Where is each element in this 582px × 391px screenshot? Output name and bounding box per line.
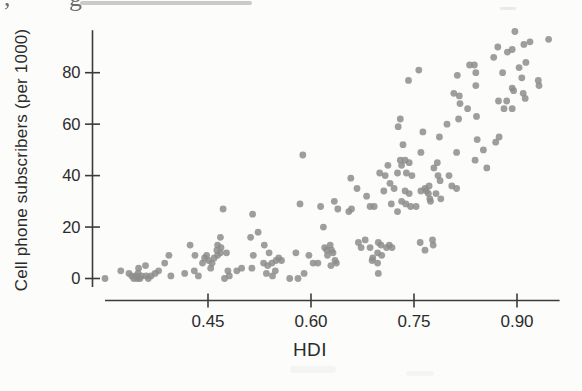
data-point [249, 265, 256, 272]
data-point [218, 244, 225, 251]
data-point [374, 260, 381, 267]
data-point [436, 134, 443, 141]
data-point [455, 116, 462, 123]
data-point [362, 237, 369, 244]
y-tick-label: 0 [71, 269, 80, 287]
data-point [453, 149, 460, 156]
data-point [516, 64, 523, 71]
data-point [385, 162, 392, 169]
x-tick-label: 0.45 [191, 312, 224, 331]
scanned-figure-page: , g 0204060800.450.600.750.90 Cell phone… [0, 0, 582, 391]
data-point [395, 123, 402, 130]
data-point [333, 260, 340, 267]
data-point [354, 185, 361, 192]
data-point [454, 72, 461, 79]
data-point [380, 188, 387, 195]
data-point [418, 149, 425, 156]
y-tick-label: 20 [62, 218, 80, 236]
data-point [306, 252, 313, 259]
data-point [161, 260, 168, 267]
data-point [509, 105, 516, 112]
data-point [415, 67, 422, 74]
data-point [474, 136, 481, 143]
data-point [278, 257, 285, 264]
data-point [195, 273, 202, 280]
data-point [406, 190, 413, 197]
data-point [217, 234, 224, 241]
data-point [226, 273, 233, 280]
data-point [521, 41, 528, 48]
scatter-plot: 0204060800.450.600.750.90 [0, 0, 582, 391]
data-point [434, 159, 441, 166]
data-point [406, 159, 413, 166]
data-point [536, 82, 543, 89]
data-point [348, 206, 355, 213]
data-point [490, 54, 497, 61]
data-point [422, 247, 429, 254]
data-point [400, 141, 407, 148]
data-point [367, 244, 374, 251]
data-point [369, 255, 376, 262]
data-point [299, 152, 306, 159]
x-tick-label: 0.75 [397, 312, 430, 331]
data-point [437, 177, 444, 184]
data-point [446, 172, 453, 179]
data-point [166, 252, 173, 259]
data-point [426, 183, 433, 190]
data-point [518, 74, 525, 81]
data-point [473, 113, 480, 120]
data-point [358, 244, 365, 251]
data-point [263, 270, 270, 277]
data-point [496, 134, 503, 141]
data-point [297, 201, 304, 208]
data-point [464, 105, 471, 112]
data-point [272, 267, 279, 274]
y-tick-label: 60 [62, 115, 80, 133]
data-point [409, 172, 416, 179]
data-point [142, 262, 149, 269]
data-point [238, 265, 245, 272]
data-point [250, 252, 257, 259]
data-point [522, 95, 529, 102]
data-point [405, 77, 412, 84]
data-point [430, 242, 437, 249]
data-point [509, 46, 516, 53]
y-tick-label: 40 [62, 166, 80, 184]
data-point [523, 59, 530, 66]
data-point [334, 206, 341, 213]
data-point [320, 224, 327, 231]
data-point [397, 116, 404, 123]
data-point [286, 275, 293, 282]
data-point [527, 38, 534, 45]
data-point [371, 203, 378, 210]
data-point [417, 239, 424, 246]
data-point [261, 242, 268, 249]
data-point [249, 211, 256, 218]
data-point [394, 208, 401, 215]
data-point [456, 93, 463, 100]
data-point [471, 62, 478, 69]
data-point [255, 229, 262, 236]
data-point [427, 198, 434, 205]
data-point [330, 249, 337, 256]
data-point [135, 265, 142, 272]
data-point [168, 273, 175, 280]
data-point [315, 260, 322, 267]
data-point [295, 275, 302, 282]
data-point [223, 249, 230, 256]
data-point [378, 252, 385, 259]
data-point [247, 234, 254, 241]
data-point [293, 249, 300, 256]
data-point [192, 252, 199, 259]
data-point [503, 98, 510, 105]
data-point [117, 267, 124, 274]
data-point [472, 69, 479, 76]
data-point [331, 198, 338, 205]
y-tick-label: 80 [62, 63, 80, 81]
data-point [510, 87, 517, 94]
data-point [102, 275, 109, 282]
data-point [457, 100, 464, 107]
data-point [437, 195, 444, 202]
x-tick-label: 0.60 [294, 312, 327, 331]
x-axis-title: HDI [278, 339, 342, 361]
